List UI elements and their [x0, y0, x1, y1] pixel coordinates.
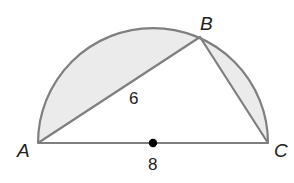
point-label-a: A	[16, 140, 30, 161]
point-label-b: B	[200, 13, 213, 34]
measure-ac: 8	[148, 155, 157, 174]
semicircle-diagram: A B C 6 8	[0, 0, 294, 183]
point-label-c: C	[274, 140, 288, 161]
measure-ab: 6	[129, 89, 138, 108]
center-dot	[149, 139, 157, 147]
